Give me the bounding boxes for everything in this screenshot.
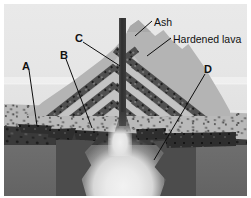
sill-center-left — [74, 130, 98, 141]
sill-right-outer — [164, 132, 236, 148]
volcano-cone — [22, 16, 230, 116]
central-conduit — [119, 18, 126, 126]
volcano-cross-section-figure: ABCDAshHardened lava — [0, 0, 251, 198]
figure-frame: ABCDAshHardened lava — [4, 4, 247, 196]
label-a: A — [22, 61, 30, 72]
label-c: C — [75, 33, 83, 44]
label-d: D — [204, 64, 212, 75]
label-hardened-lava: Hardened lava — [173, 34, 241, 45]
cone-strata-clip — [22, 16, 230, 116]
label-ash: Ash — [154, 17, 172, 28]
summit-cap — [97, 16, 159, 32]
label-b: B — [60, 50, 68, 61]
sill-center-right — [136, 128, 166, 140]
